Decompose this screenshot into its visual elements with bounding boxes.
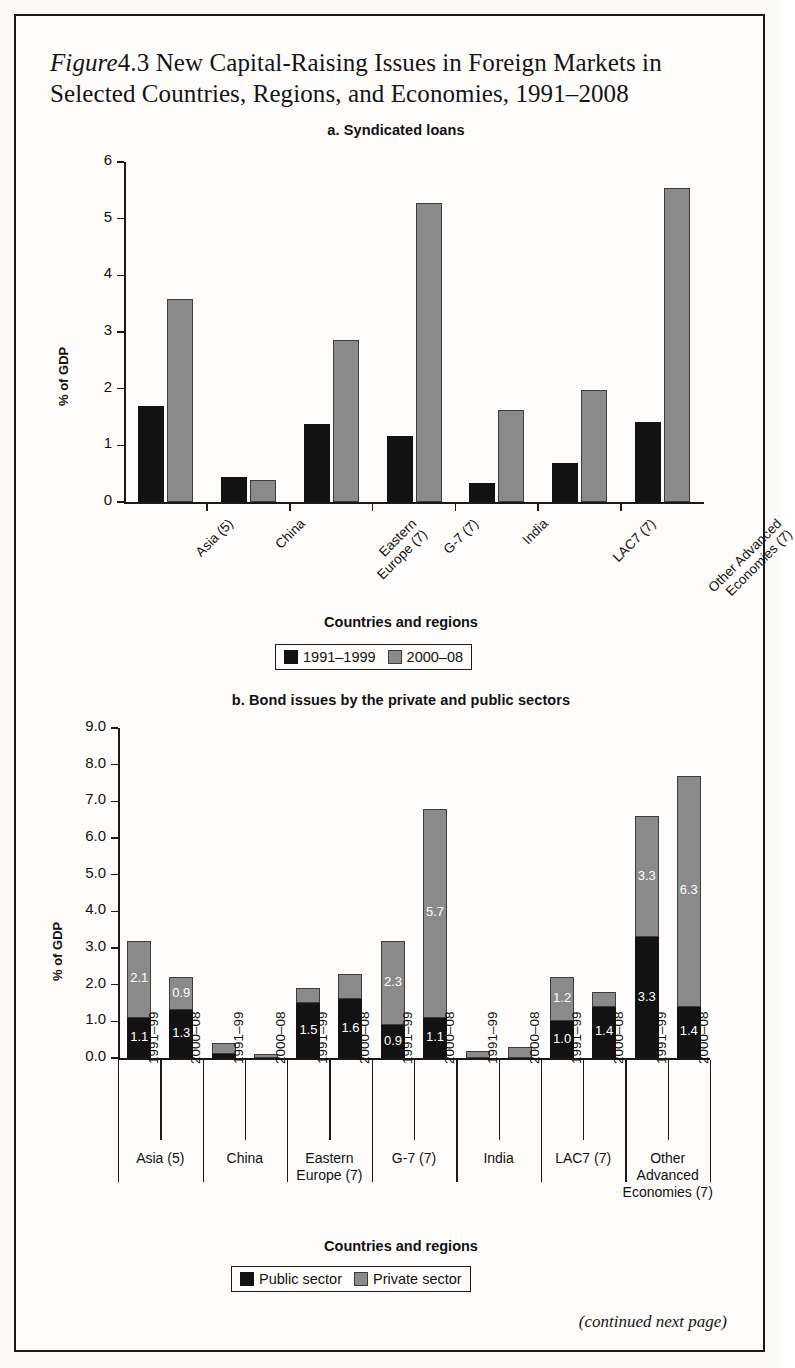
panel-b-legend-item: Public sector xyxy=(240,1271,342,1287)
panel-b-y-axis-label: % of GDP xyxy=(50,922,65,981)
figure-frame: Figure4.3 New Capital-Raising Issues in … xyxy=(14,14,765,1352)
panel-b-legend-swatch xyxy=(240,1272,254,1286)
panel-b-y-tick xyxy=(111,947,118,949)
panel-b-period-label: 2000–08 xyxy=(188,1011,203,1064)
panel-b-period-label: 2000–08 xyxy=(696,1011,711,1064)
panel-b-bar-private xyxy=(296,988,320,1003)
panel-b-x-axis-title: Countries and regions xyxy=(171,1238,631,1254)
panel-b-period-label: 2000–08 xyxy=(357,1011,372,1064)
panel-b-y-tick xyxy=(111,1057,118,1059)
panel-b-y-tick-label: 6.0 xyxy=(68,827,106,844)
panel-b-group-label-line: Europe (7) xyxy=(271,1167,387,1184)
panel-b-legend-item: Private sector xyxy=(354,1271,462,1287)
panel-b-legend-swatch xyxy=(354,1272,368,1286)
panel-b-y-tick-label: 4.0 xyxy=(68,900,106,917)
panel-b-y-tick-label: 5.0 xyxy=(68,864,106,881)
panel-b-y-tick-label: 1.0 xyxy=(68,1010,106,1027)
panel-b-legend-label: Private sector xyxy=(373,1271,462,1287)
panel-b-period-label: 1991–99 xyxy=(146,1011,161,1064)
panel-b-y-tick-label: 3.0 xyxy=(68,937,106,954)
panel-b-y-tick-label: 7.0 xyxy=(68,790,106,807)
panel-b-y-tick xyxy=(111,801,118,803)
panel-b-bar-private xyxy=(338,974,362,1000)
panel-b-period-label: 2000–08 xyxy=(442,1011,457,1064)
panel-b-bar-private-label: 2.3 xyxy=(381,974,405,989)
panel-b-y-tick-label: 8.0 xyxy=(68,754,106,771)
panel-b-bar-private xyxy=(592,992,616,1007)
panel-b-legend-label: Public sector xyxy=(259,1271,342,1287)
panel-b-period-label: 1991–99 xyxy=(231,1011,246,1064)
panel-b-bar-private-label: 6.3 xyxy=(677,882,701,897)
panel-b-bar-private-label: 1.2 xyxy=(550,990,574,1005)
panel-b-group-label-line: Advanced xyxy=(610,1167,726,1184)
panel-b-period-label: 1991–99 xyxy=(654,1011,669,1064)
panel-b-period-label: 1991–99 xyxy=(485,1011,500,1064)
panel-b-period-separator xyxy=(160,1060,161,1140)
panel-b-period-label: 1991–99 xyxy=(400,1011,415,1064)
panel-b-y-tick xyxy=(111,874,118,876)
panel-b-period-separator xyxy=(245,1060,246,1140)
panel-b-y-tick xyxy=(111,911,118,913)
panel-b-period-separator xyxy=(583,1060,584,1140)
panel-b-bar-private-label: 2.1 xyxy=(127,970,151,985)
panel-b-group-label-line: Economies (7) xyxy=(610,1184,726,1201)
panel-b-group-label-line: Other xyxy=(610,1150,726,1167)
panel-b-period-separator xyxy=(499,1060,500,1140)
panel-b-legend: Public sectorPrivate sector xyxy=(231,1266,471,1292)
panel-b-y-tick-label: 9.0 xyxy=(68,717,106,734)
panel-b-group-label: OtherAdvancedEconomies (7) xyxy=(610,1150,726,1201)
panel-b-period-label: 2000–08 xyxy=(273,1011,288,1064)
panel-b-period-label: 2000–08 xyxy=(527,1011,542,1064)
panel-b-bar-public-label: 3.3 xyxy=(635,989,659,1004)
panel-b-bar-private-label: 3.3 xyxy=(635,868,659,883)
panel-b-y-tick-label: 2.0 xyxy=(68,974,106,991)
panel-b-y-tick xyxy=(111,984,118,986)
panel-b-y-tick xyxy=(111,837,118,839)
panel-b-plot-area: 0.01.02.03.04.05.06.07.08.09.02.11.10.91… xyxy=(118,728,710,1058)
panel-b-period-separator xyxy=(668,1060,669,1140)
panel-b-period-label: 2000–08 xyxy=(611,1011,626,1064)
panel-b-bond-issues: b. Bond issues by the private and public… xyxy=(16,16,767,1316)
continued-footer: (continued next page) xyxy=(579,1312,727,1332)
panel-b-period-label: 1991–99 xyxy=(315,1011,330,1064)
panel-b-y-tick xyxy=(111,764,118,766)
panel-b-bar-private-label: 5.7 xyxy=(423,904,447,919)
panel-b-title: b. Bond issues by the private and public… xyxy=(111,692,691,708)
panel-b-bar-private-label: 0.9 xyxy=(169,985,193,1000)
panel-b-y-tick xyxy=(111,1021,118,1023)
panel-b-period-label: 1991–99 xyxy=(569,1011,584,1064)
panel-b-y-tick-label: 0.0 xyxy=(68,1047,106,1064)
panel-b-y-axis xyxy=(118,728,120,1058)
panel-b-y-tick xyxy=(111,727,118,729)
panel-b-period-separator xyxy=(414,1060,415,1140)
panel-b-period-separator xyxy=(329,1060,330,1140)
